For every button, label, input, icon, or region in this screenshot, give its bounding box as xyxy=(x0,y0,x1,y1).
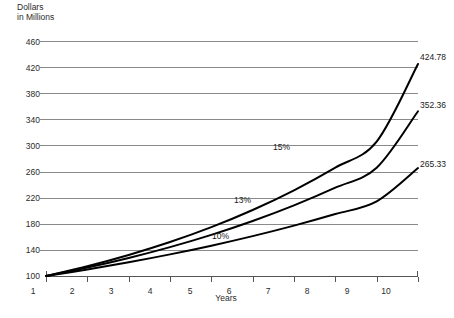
y-tick-label: 380 xyxy=(0,89,40,99)
y-tick-label: 220 xyxy=(0,193,40,203)
x-axis-caption-text: Years xyxy=(215,293,236,303)
y-tick-label: 140 xyxy=(0,245,40,255)
growth-chart: Dollarsin Millions 460 420 380 340 300 2… xyxy=(0,0,454,318)
y-tick-label: 180 xyxy=(0,219,40,229)
y-tick-label: 420 xyxy=(0,63,40,73)
series-label-10: 10% xyxy=(212,231,229,241)
end-value-label-10: 265.33 xyxy=(420,159,446,169)
end-value-label-13: 352.36 xyxy=(420,100,446,110)
x-axis-caption: Years xyxy=(0,293,454,303)
plot-area xyxy=(0,0,454,318)
y-tick-label: 100 xyxy=(0,271,40,281)
series-label-15: 15% xyxy=(273,142,290,152)
y-tick-label: 340 xyxy=(0,115,40,125)
y-tick-label: 460 xyxy=(0,37,40,47)
y-tick-label: 300 xyxy=(0,141,40,151)
y-tick-label: 260 xyxy=(0,167,40,177)
end-value-label-15: 424.78 xyxy=(420,52,446,62)
series-label-13: 13% xyxy=(234,195,251,205)
